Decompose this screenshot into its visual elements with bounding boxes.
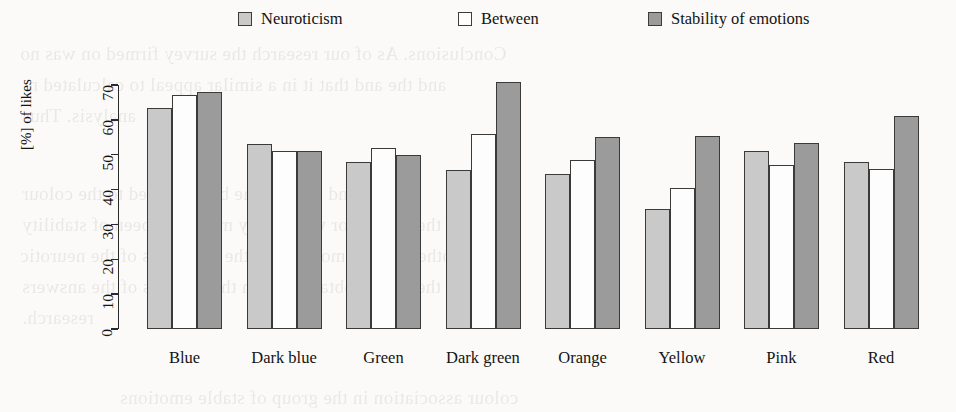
bar [247,144,272,329]
bar [197,92,222,329]
y-axis-tick-label: 50 [98,155,116,171]
y-axis-label: [%] of likes [18,79,35,150]
bar [769,165,794,329]
bar [172,95,197,329]
bar [496,82,521,329]
bar [446,170,471,329]
bar [371,148,396,329]
y-axis-tick-label: 20 [98,259,116,275]
x-axis-category-label: Red [819,348,944,368]
bar [844,162,869,329]
bar [346,162,371,329]
bar [471,134,496,329]
bar [570,160,595,329]
y-axis-tick-label: 70 [98,85,116,101]
bar [869,169,894,329]
y-axis-line [118,85,119,329]
bar [744,151,769,329]
y-axis-end-cap [111,328,118,329]
bar [147,108,172,329]
bar [545,174,570,329]
y-axis-end-cap [111,84,118,85]
y-axis-tick-label: 60 [98,120,116,136]
bar [670,188,695,329]
y-axis-tick-label: 0 [98,329,116,337]
bar [695,136,720,329]
bar [396,155,421,329]
y-axis-tick-label: 30 [98,224,116,240]
bar [595,137,620,329]
y-axis-tick-label: 10 [98,294,116,310]
y-axis-tick-label: 40 [98,190,116,206]
bar [297,151,322,329]
bar [794,143,819,329]
bar [645,209,670,329]
bar [894,116,919,329]
bar [272,151,297,329]
